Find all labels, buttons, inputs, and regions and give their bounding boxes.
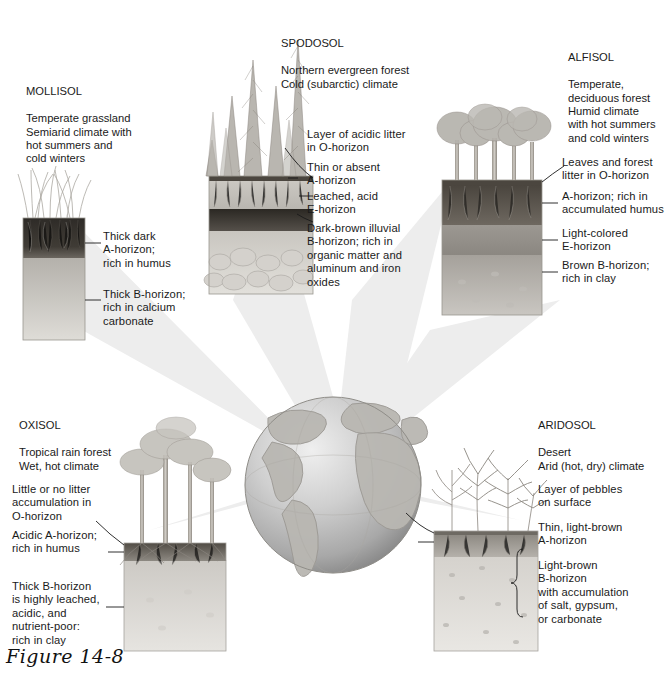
figure-soil-orders-diagram: MOLLISOL Temperate grassland Semiarid cl… <box>0 0 667 677</box>
soil-name-oxisol: OXISOL <box>19 419 111 432</box>
soil-description-aridosol: Desert Arid (hot, dry) climate <box>538 446 644 471</box>
soil-header-mollisol: MOLLISOL Temperate grassland Semiarid cl… <box>26 72 132 166</box>
annotation-alfisol-a-horizon: A-horizon; rich in accumulated humus <box>562 190 664 217</box>
annotation-mollisol-b-horizon: Thick B-horizon; rich in calcium carbona… <box>103 288 185 328</box>
soil-header-aridosol: ARIDOSOL Desert Arid (hot, dry) climate <box>538 406 644 473</box>
annotation-spodosol-b-horizon: Dark-brown illuvial B-horizon; rich in o… <box>307 222 402 289</box>
annotation-alfisol-o-horizon: Leaves and forest litter in O-horizon <box>562 156 653 183</box>
figure-caption: Figure 14-8 <box>6 645 124 667</box>
annotation-spodosol-o-horizon: Layer of acidic litter in O-horizon <box>307 128 406 155</box>
profile-aridosol <box>432 448 549 651</box>
annotation-oxisol-b-horizon: Thick B-horizon is highly leached, acidi… <box>12 580 100 647</box>
profile-mollisol <box>18 166 91 340</box>
annotation-alfisol-e-horizon: Light-colored E-horizon <box>562 227 628 254</box>
annotation-aridosol-b-horizon: Light-brown B-horizon with accumulation … <box>538 559 629 626</box>
annotation-aridosol-pebbles: Layer of pebbles on surface <box>538 483 622 510</box>
soil-name-alfisol: ALFISOL <box>568 51 656 64</box>
annotation-alfisol-b-horizon: Brown B-horizon; rich in clay <box>562 259 649 286</box>
soil-description-alfisol: Temperate, deciduous forest Humid climat… <box>568 78 656 144</box>
annotation-oxisol-o-horizon: Little or no litter accumulation in O-ho… <box>12 483 91 523</box>
annotation-oxisol-a-horizon: Acidic A-horizon; rich in humus <box>12 529 97 556</box>
leader-lines-alfisol <box>542 166 564 272</box>
profile-alfisol <box>437 104 551 315</box>
annotation-mollisol-a-horizon: Thick dark A-horizon; rich in humus <box>103 230 171 270</box>
deciduous-forest-icon <box>437 104 551 180</box>
soil-header-spodosol: SPODOSOL Northern evergreen forest Cold … <box>281 24 409 91</box>
soil-name-spodosol: SPODOSOL <box>281 37 409 50</box>
soil-header-alfisol: ALFISOL Temperate, deciduous forest Humi… <box>568 38 656 145</box>
soil-name-aridosol: ARIDOSOL <box>538 419 644 432</box>
soil-description-mollisol: Temperate grassland Semiarid climate wit… <box>26 112 132 164</box>
profile-oxisol <box>120 417 231 651</box>
grass-icon <box>18 166 91 218</box>
annotation-spodosol-e-horizon: Leached, acid E-horizon <box>307 190 378 217</box>
desert-plants-icon <box>432 448 549 531</box>
annotation-spodosol-a-horizon: Thin or absent A-horizon <box>307 161 380 188</box>
soil-header-oxisol: OXISOL Tropical rain forest Wet, hot cli… <box>19 406 111 473</box>
soil-description-spodosol: Northern evergreen forest Cold (subarcti… <box>281 64 409 89</box>
soil-name-mollisol: MOLLISOL <box>26 85 132 98</box>
leader-lines-oxisol <box>96 521 124 607</box>
soil-description-oxisol: Tropical rain forest Wet, hot climate <box>19 446 111 471</box>
annotation-aridosol-a-horizon: Thin, light-brown A-horizon <box>538 521 622 548</box>
